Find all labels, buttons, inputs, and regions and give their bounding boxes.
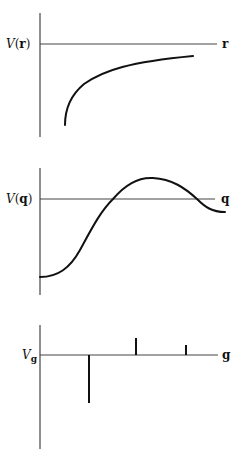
panel-potential-q: V(q) q xyxy=(6,168,230,295)
panel-potential-r: V(r) r xyxy=(6,13,229,137)
y-axis-label: V(q) xyxy=(6,192,32,206)
diagram-canvas: V(r) r V(q) q Vg g xyxy=(0,0,239,464)
potential-curve xyxy=(65,56,193,125)
x-axis-label: q xyxy=(221,192,230,206)
y-axis-label: Vg xyxy=(22,348,38,364)
x-axis-label: r xyxy=(222,37,229,51)
y-axis-label: V(r) xyxy=(6,37,30,51)
panel-potential-g: Vg g xyxy=(22,325,231,449)
potential-curve xyxy=(40,178,225,277)
x-axis-label: g xyxy=(222,348,231,362)
